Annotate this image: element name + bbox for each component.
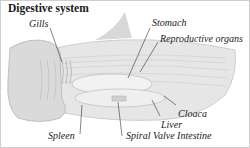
label-spleen: Spleen	[48, 130, 75, 141]
dorsal-fin	[95, 12, 132, 40]
label-spiral-valve-intestine: Spiral Valve Intestine	[126, 130, 212, 141]
label-liver: Liver	[161, 119, 182, 130]
hand	[8, 40, 66, 122]
label-stomach: Stomach	[152, 17, 186, 28]
label-cloaca: Cloaca	[178, 108, 207, 119]
diagram-title: Digestive system	[8, 2, 89, 14]
spiral-valve-organ	[112, 96, 126, 101]
label-gills: Gills	[29, 18, 48, 29]
label-reproductive-organs: Reproductive organs	[160, 33, 243, 44]
